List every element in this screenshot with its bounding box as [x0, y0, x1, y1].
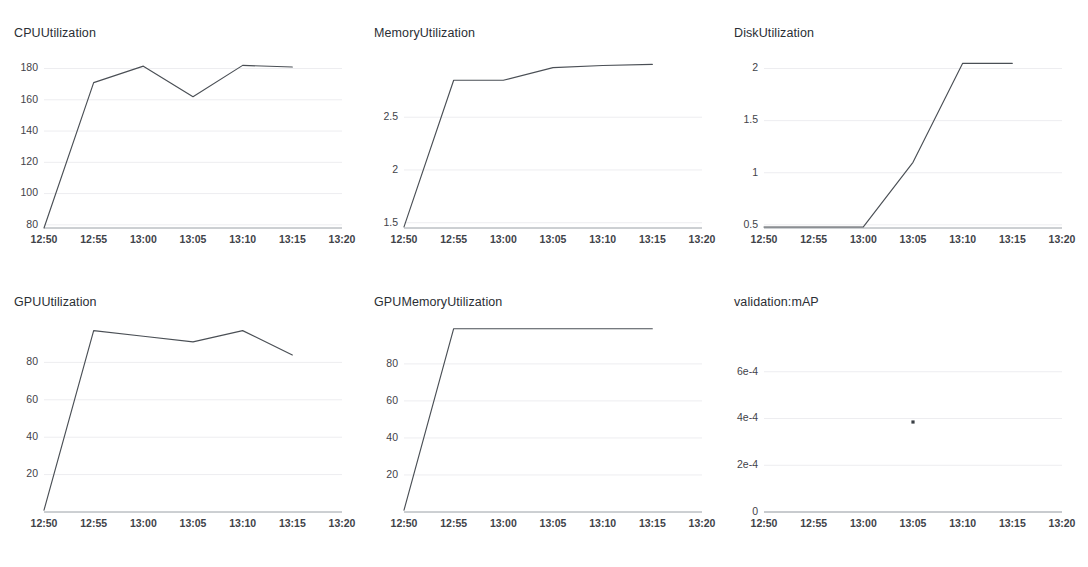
x-axis-tick-label: 13:20: [1049, 517, 1076, 529]
y-axis-tick-label: 120: [20, 155, 38, 167]
chart-svg-validation-map: 02e-44e-46e-412:5012:5513:0013:0513:1013…: [734, 319, 1064, 534]
y-axis-tick-label: 140: [20, 124, 38, 136]
chart-plot-disk-utilization: 0.511.5212:5012:5513:0013:0513:1013:1513…: [734, 50, 1064, 250]
chart-title-validation-map: validation:mAP: [734, 295, 819, 309]
x-axis-tick-label: 13:05: [540, 517, 567, 529]
x-axis-tick-label: 13:10: [949, 517, 976, 529]
x-axis-tick-label: 13:05: [900, 517, 927, 529]
x-axis-tick-label: 13:20: [689, 517, 716, 529]
x-axis-tick-label: 13:20: [329, 517, 356, 529]
chart-panel-gpu-utilization: GPUUtilization 2040608012:5012:5513:0013…: [0, 285, 360, 567]
data-point: [911, 420, 914, 423]
x-axis-tick-label: 12:50: [391, 233, 418, 245]
chart-plot-gpu-memory-utilization: 2040608012:5012:5513:0013:0513:1013:1513…: [374, 319, 704, 534]
x-axis-tick-label: 12:55: [80, 233, 107, 245]
chart-plot-memory-utilization: 1.522.512:5012:5513:0013:0513:1013:1513:…: [374, 50, 704, 250]
y-axis-tick-label: 2: [752, 61, 758, 73]
x-axis-tick-label: 13:15: [999, 517, 1026, 529]
x-axis-tick-label: 13:15: [999, 233, 1026, 245]
y-axis-tick-label: 80: [26, 218, 38, 230]
x-axis-tick-label: 13:20: [329, 233, 356, 245]
chart-plot-cpu-utilization: 8010012014016018012:5012:5513:0013:0513:…: [14, 50, 344, 250]
y-axis-tick-label: 60: [386, 394, 398, 406]
x-axis-tick-label: 12:55: [440, 233, 467, 245]
x-axis-tick-label: 12:50: [751, 517, 778, 529]
data-line-disk-utilization: [764, 63, 1012, 227]
chart-svg-gpu-memory-utilization: 2040608012:5012:5513:0013:0513:1013:1513…: [374, 319, 704, 534]
x-axis-tick-label: 13:15: [279, 517, 306, 529]
data-line-gpu-utilization: [44, 331, 292, 511]
x-axis-tick-label: 12:55: [800, 233, 827, 245]
x-axis-tick-label: 12:50: [31, 517, 58, 529]
y-axis-tick-label: 80: [386, 357, 398, 369]
chart-svg-cpu-utilization: 8010012014016018012:5012:5513:0013:0513:…: [14, 50, 344, 250]
chart-title-gpu-utilization: GPUUtilization: [14, 295, 97, 309]
y-axis-tick-label: 2.5: [383, 110, 398, 122]
x-axis-tick-label: 13:00: [490, 517, 517, 529]
x-axis-tick-label: 13:00: [130, 233, 157, 245]
x-axis-tick-label: 13:00: [490, 233, 517, 245]
y-axis-tick-label: 40: [386, 431, 398, 443]
y-axis-tick-label: 2: [392, 163, 398, 175]
x-axis-tick-label: 13:15: [639, 517, 666, 529]
y-axis-tick-label: 0.5: [743, 218, 758, 230]
chart-panel-gpu-memory-utilization: GPUMemoryUtilization 2040608012:5012:551…: [360, 285, 720, 567]
x-axis-tick-label: 13:20: [1049, 233, 1076, 245]
y-axis-tick-label: 180: [20, 61, 38, 73]
y-axis-tick-label: 20: [386, 468, 398, 480]
x-axis-tick-label: 13:05: [540, 233, 567, 245]
x-axis-tick-label: 13:05: [900, 233, 927, 245]
chart-svg-disk-utilization: 0.511.5212:5012:5513:0013:0513:1013:1513…: [734, 50, 1064, 250]
y-axis-tick-label: 1: [752, 166, 758, 178]
chart-title-memory-utilization: MemoryUtilization: [374, 26, 475, 40]
y-axis-tick-label: 6e-4: [737, 365, 758, 377]
y-axis-tick-label: 40: [26, 430, 38, 442]
x-axis-tick-label: 13:10: [949, 233, 976, 245]
x-axis-tick-label: 13:15: [639, 233, 666, 245]
chart-title-disk-utilization: DiskUtilization: [734, 26, 814, 40]
x-axis-tick-label: 13:00: [850, 233, 877, 245]
x-axis-tick-label: 12:50: [31, 233, 58, 245]
y-axis-tick-label: 1.5: [383, 216, 398, 228]
y-axis-tick-label: 100: [20, 186, 38, 198]
chart-title-cpu-utilization: CPUUtilization: [14, 26, 96, 40]
chart-plot-validation-map: 02e-44e-46e-412:5012:5513:0013:0513:1013…: [734, 319, 1064, 534]
chart-plot-gpu-utilization: 2040608012:5012:5513:0013:0513:1013:1513…: [14, 319, 344, 534]
x-axis-tick-label: 12:55: [80, 517, 107, 529]
y-axis-tick-label: 60: [26, 393, 38, 405]
y-axis-tick-label: 80: [26, 355, 38, 367]
x-axis-tick-label: 13:15: [279, 233, 306, 245]
x-axis-tick-label: 12:55: [800, 517, 827, 529]
y-axis-tick-label: 20: [26, 467, 38, 479]
x-axis-tick-label: 12:55: [440, 517, 467, 529]
chart-panel-validation-map: validation:mAP 02e-44e-46e-412:5012:5513…: [720, 285, 1088, 567]
chart-panel-disk-utilization: DiskUtilization 0.511.5212:5012:5513:001…: [720, 0, 1088, 285]
x-axis-tick-label: 13:10: [229, 517, 256, 529]
y-axis-tick-label: 2e-4: [737, 458, 758, 470]
x-axis-tick-label: 12:50: [391, 517, 418, 529]
x-axis-tick-label: 13:20: [689, 233, 716, 245]
data-line-cpu-utilization: [44, 65, 292, 228]
x-axis-tick-label: 13:00: [850, 517, 877, 529]
chart-svg-memory-utilization: 1.522.512:5012:5513:0013:0513:1013:1513:…: [374, 50, 704, 250]
data-line-memory-utilization: [404, 64, 652, 227]
y-axis-tick-label: 0: [752, 505, 758, 517]
x-axis-tick-label: 13:10: [229, 233, 256, 245]
chart-panel-memory-utilization: MemoryUtilization 1.522.512:5012:5513:00…: [360, 0, 720, 285]
x-axis-tick-label: 13:05: [180, 233, 207, 245]
x-axis-tick-label: 13:00: [130, 517, 157, 529]
y-axis-tick-label: 4e-4: [737, 411, 758, 423]
y-axis-tick-label: 1.5: [743, 113, 758, 125]
data-line-gpu-memory-utilization: [404, 329, 652, 510]
metrics-chart-grid: CPUUtilization 8010012014016018012:5012:…: [0, 0, 1088, 567]
x-axis-tick-label: 13:10: [589, 517, 616, 529]
chart-title-gpu-memory-utilization: GPUMemoryUtilization: [374, 295, 502, 309]
x-axis-tick-label: 13:10: [589, 233, 616, 245]
x-axis-tick-label: 12:50: [751, 233, 778, 245]
x-axis-tick-label: 13:05: [180, 517, 207, 529]
chart-panel-cpu-utilization: CPUUtilization 8010012014016018012:5012:…: [0, 0, 360, 285]
y-axis-tick-label: 160: [20, 93, 38, 105]
chart-svg-gpu-utilization: 2040608012:5012:5513:0013:0513:1013:1513…: [14, 319, 344, 534]
